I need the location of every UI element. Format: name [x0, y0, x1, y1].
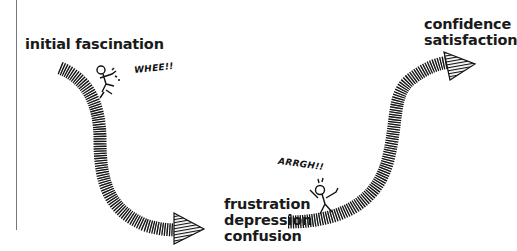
label-depression: depression	[224, 212, 312, 228]
distressed-figure	[310, 178, 338, 214]
label-satisfaction: satisfaction	[424, 32, 517, 48]
label-line: initial fascination	[25, 36, 164, 52]
label-initial-fascination: initial fascination	[25, 36, 164, 52]
label-frustration: frustration	[224, 196, 312, 212]
falling-figure	[97, 66, 120, 98]
label-high-point: confidence satisfaction	[424, 16, 517, 48]
label-confidence: confidence	[424, 16, 517, 32]
label-confusion: confusion	[224, 228, 312, 244]
label-low-point: frustration depression confusion	[224, 196, 312, 244]
descending-arrow	[60, 68, 204, 244]
